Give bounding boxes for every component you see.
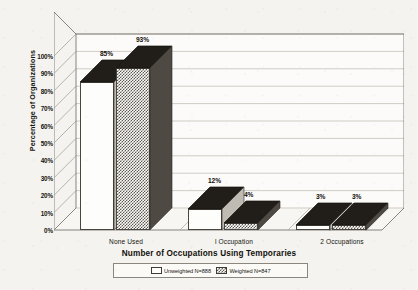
- legend-item: Weighted N=847: [216, 267, 271, 274]
- bar-data-label: 93%: [136, 36, 149, 43]
- x-axis-category-label: None Used: [109, 238, 143, 245]
- y-axis-tick-label: 70%: [17, 105, 53, 112]
- y-axis-tick-label: 80%: [17, 87, 53, 94]
- x-axis-title: Number of Occupations Using Temporaries: [0, 249, 418, 258]
- bar-data-label: 3%: [352, 193, 361, 200]
- legend-label: Unweighted N=888: [164, 268, 211, 274]
- bar-data-label: 85%: [100, 50, 113, 57]
- y-axis-tick-label: 30%: [17, 174, 53, 181]
- bar-3d-side: [366, 203, 390, 232]
- y-axis-tick-labels: 0%10%20%30%40%50%60%70%80%90%100%: [17, 14, 53, 235]
- y-axis-tick-label: 100%: [17, 53, 53, 60]
- bar-3d-side: [150, 46, 174, 232]
- bar-front-face: [80, 82, 114, 230]
- legend-label: Weighted N=847: [229, 268, 270, 274]
- bar: [188, 209, 222, 230]
- legend-swatch: [151, 267, 162, 274]
- bar-data-label: 4%: [244, 191, 253, 198]
- bar: [116, 68, 150, 230]
- bar: [80, 82, 114, 230]
- bar: [296, 225, 330, 230]
- chart-legend: Unweighted N=888Weighted N=847: [113, 263, 308, 278]
- y-axis-tick-label: 40%: [17, 157, 53, 164]
- y-axis-tick-label: 90%: [17, 70, 53, 77]
- bar-front-face: [116, 68, 150, 230]
- bar-3d-side: [258, 201, 282, 232]
- y-axis-tick-label: 10%: [17, 209, 53, 216]
- plot-area: 85%93%12%4%3%3%: [54, 12, 404, 237]
- bars-layer: 85%93%12%4%3%3%: [54, 12, 404, 237]
- chart-figure: Percentage of Organizations 0%10%20%30%4…: [0, 0, 418, 290]
- bar-data-label: 12%: [208, 177, 221, 184]
- y-axis-tick-label: 50%: [17, 140, 53, 147]
- y-axis-tick-label: 20%: [17, 192, 53, 199]
- bar: [332, 225, 366, 230]
- x-axis-category-label: l Occupation: [215, 238, 253, 245]
- y-axis-tick-label: 0%: [17, 227, 53, 234]
- legend-swatch: [216, 267, 227, 274]
- bar: [224, 223, 258, 230]
- x-axis-category-label: 2 Occupations: [320, 238, 363, 245]
- y-axis-tick-label: 60%: [17, 122, 53, 129]
- bar-data-label: 3%: [316, 193, 325, 200]
- legend-item: Unweighted N=888: [151, 267, 211, 274]
